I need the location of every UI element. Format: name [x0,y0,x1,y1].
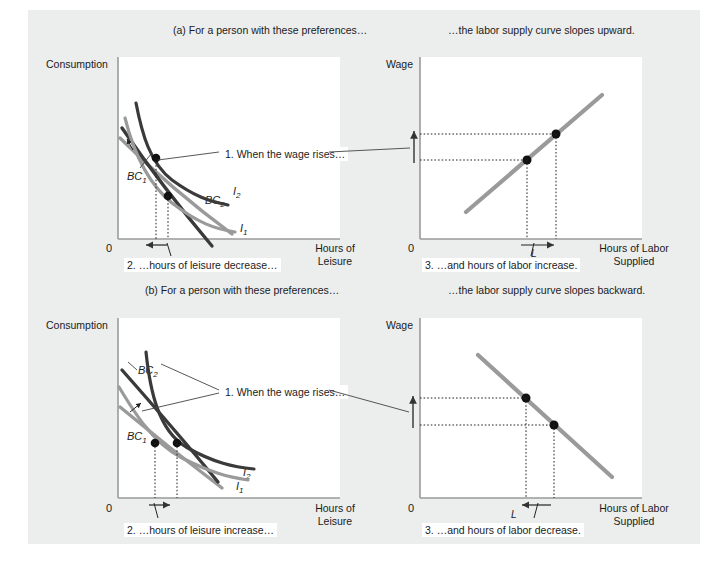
panel-a-leisure-tick [167,243,171,256]
figure-vector-layer [0,0,707,562]
panel-b-curve-bc2 [122,370,218,482]
panel-a-labor-supply-curve [466,95,602,212]
panel-a-left-axes [118,57,340,239]
panel-b-right-axes [420,318,642,498]
panel-b-leader-bc2 [128,362,137,370]
panel-a-right-axes [420,57,642,239]
panel-b-labor-supply-curve [478,355,612,477]
panel-a-curve-bc2 [122,128,212,246]
panel-b-curve-bc1 [120,407,222,488]
panel-a-connector-line [329,148,410,152]
panel-b-leader-to-bc2-curve [161,364,219,390]
panel-a-curve-i1 [125,118,235,232]
panel-b-left-axes [118,318,340,498]
panel-a-leader-to-optimum [158,152,219,160]
labor-supply-figure: (a) For a person with these preferences…… [0,0,707,562]
panel-b-curve-i2 [146,352,254,469]
panel-b-connector-line [329,390,409,412]
panel-a-curve-i2 [136,103,228,205]
